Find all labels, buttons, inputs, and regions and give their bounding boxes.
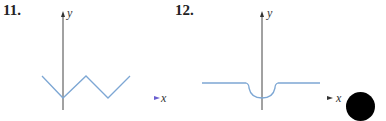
graph-11 [24,11,160,110]
y-axis-arrow-icon [260,11,264,17]
graph-12 [195,11,333,110]
function-curve [202,83,320,98]
x-axis-arrow-icon [154,96,160,100]
x-axis-arrow-icon [327,96,333,100]
function-curve [42,76,130,98]
graphs-figure [0,0,386,121]
black-dot-marker [346,92,375,121]
y-axis-arrow-icon [61,11,65,17]
